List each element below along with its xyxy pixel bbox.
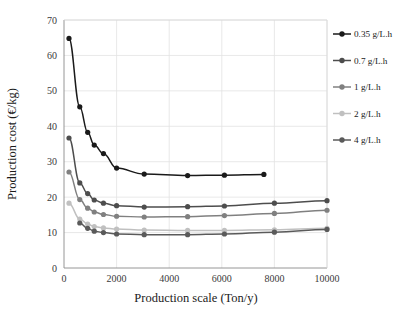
- chart-figure: 0200040006000800010000 010203040506070 0…: [0, 0, 411, 317]
- production-cost-line-chart: 0200040006000800010000 010203040506070 0…: [0, 0, 411, 317]
- y-tick-label: 50: [47, 85, 57, 96]
- y-tick-label: 40: [47, 121, 57, 132]
- legend-item-1[interactable]: 0.7 g/L.h: [333, 56, 388, 66]
- y-tick-label: 70: [47, 15, 57, 26]
- legend-label: 4 g/L.h: [354, 135, 381, 145]
- y-tick-label: 0: [52, 263, 57, 274]
- y-tick-label: 10: [47, 227, 57, 238]
- legend-item-3[interactable]: 2 g/L.h: [333, 109, 381, 119]
- legend-label: 1 g/L.h: [354, 82, 381, 92]
- series-2: [66, 169, 329, 219]
- x-tick-label: 8000: [264, 273, 284, 284]
- legend-label: 0.35 g/L.h: [354, 29, 392, 39]
- legend: 0.35 g/L.h0.7 g/L.h1 g/L.h2 g/L.h4 g/L.h: [333, 29, 392, 145]
- y-tick-label: 60: [47, 50, 57, 61]
- x-axis-title: Production scale (Ton/y): [134, 291, 257, 305]
- series-layer: [66, 36, 329, 237]
- series-1: [66, 135, 329, 209]
- x-tick-label: 0: [62, 273, 67, 284]
- legend-item-0[interactable]: 0.35 g/L.h: [333, 29, 392, 39]
- x-tick-label: 6000: [212, 273, 232, 284]
- legend-item-4[interactable]: 4 g/L.h: [333, 135, 381, 145]
- x-tick-label: 4000: [159, 273, 179, 284]
- y-axis-title: Production cost (€/kg): [5, 88, 19, 200]
- series-0: [66, 36, 266, 178]
- legend-label: 0.7 g/L.h: [354, 56, 388, 66]
- y-tick-label: 20: [47, 192, 57, 203]
- x-tick-label: 2000: [107, 273, 127, 284]
- legend-item-2[interactable]: 1 g/L.h: [333, 82, 381, 92]
- y-axis-tick-labels: 010203040506070: [47, 15, 57, 274]
- y-tick-label: 30: [47, 156, 57, 167]
- x-axis-tick-labels: 0200040006000800010000: [62, 273, 340, 284]
- legend-label: 2 g/L.h: [354, 109, 381, 119]
- x-tick-label: 10000: [315, 273, 340, 284]
